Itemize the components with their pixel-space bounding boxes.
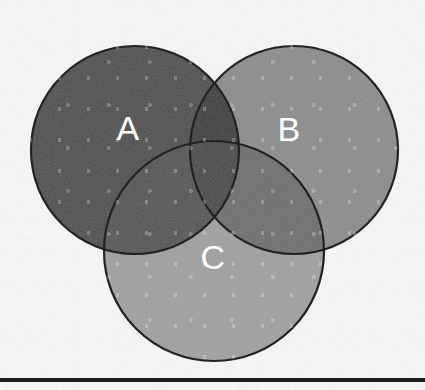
- venn-label-b: B: [277, 112, 300, 146]
- venn-label-c: C: [200, 240, 225, 274]
- venn-diagram-page: A B C: [0, 0, 425, 390]
- bottom-rule-divider: [0, 378, 425, 382]
- venn-label-a: A: [116, 111, 139, 145]
- venn-diagram-canvas: [0, 0, 425, 390]
